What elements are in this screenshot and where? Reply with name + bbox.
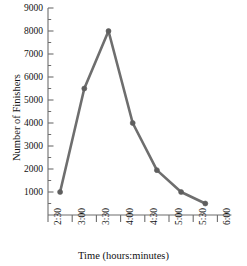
y-tick-label: 9000 (0, 3, 43, 13)
data-point (203, 201, 208, 206)
x-tick-label: 3:00 (77, 208, 87, 225)
x-tick-label: 5:00 (174, 208, 184, 225)
y-tick-label: 8000 (0, 26, 43, 36)
x-tick-label: 3:30 (101, 208, 111, 225)
x-tick-label: 4:30 (149, 208, 159, 225)
y-tick-label: 3000 (0, 141, 43, 151)
series-group (58, 29, 208, 207)
x-tick-label: 6:00 (222, 208, 232, 225)
x-tick-label: 4:00 (125, 208, 135, 225)
y-tick-label: 4000 (0, 118, 43, 128)
data-point (58, 190, 63, 195)
data-point (82, 86, 87, 91)
plot-area (0, 0, 247, 266)
series-line (60, 31, 205, 204)
data-point (130, 121, 135, 126)
y-tick-label: 1000 (0, 187, 43, 197)
data-point (106, 29, 111, 34)
data-point (154, 168, 159, 173)
finishers-line-chart: 100020003000400050006000700080009000 2:3… (0, 0, 247, 266)
y-tick-label: 6000 (0, 72, 43, 82)
x-tick-label: 5:30 (198, 208, 208, 225)
x-tick-label: 2:30 (53, 208, 63, 225)
y-axis-title: Number of Finishers (11, 58, 22, 178)
data-point (179, 190, 184, 195)
y-tick-label: 2000 (0, 164, 43, 174)
y-tick-label: 7000 (0, 49, 43, 59)
x-axis-title: Time (hours:minutes) (0, 250, 247, 261)
axes-group (48, 8, 231, 222)
y-tick-label: 5000 (0, 95, 43, 105)
